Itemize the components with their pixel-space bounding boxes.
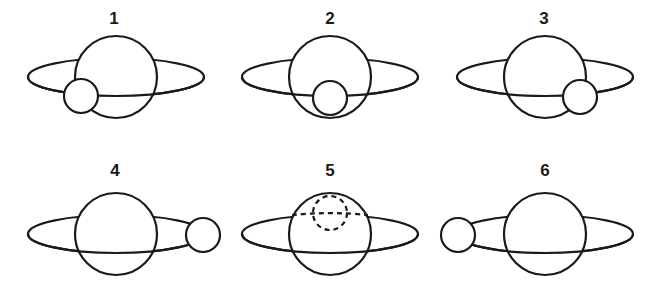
panel-6: 6 [441, 161, 633, 275]
moon-icon [186, 218, 220, 252]
ringed-planet-diagram: 1 2 3 4 5 6 [0, 0, 667, 286]
moon-icon [64, 79, 98, 113]
panel-1: 1 [28, 9, 204, 118]
moon-icon [563, 80, 597, 114]
panel-label: 6 [540, 161, 549, 180]
planet-icon [289, 193, 371, 275]
moon-icon [313, 81, 347, 115]
moon-icon [441, 218, 475, 252]
panel-3: 3 [457, 9, 633, 118]
panel-5: 5 [242, 161, 418, 275]
panel-label: 5 [325, 161, 334, 180]
panel-2: 2 [242, 9, 418, 118]
planet-icon [504, 193, 586, 275]
panel-label: 4 [110, 161, 120, 180]
panel-label: 1 [109, 9, 118, 28]
planet-icon [75, 193, 157, 275]
panel-label: 3 [539, 9, 548, 28]
panel-label: 2 [325, 9, 334, 28]
panel-4: 4 [28, 161, 220, 275]
